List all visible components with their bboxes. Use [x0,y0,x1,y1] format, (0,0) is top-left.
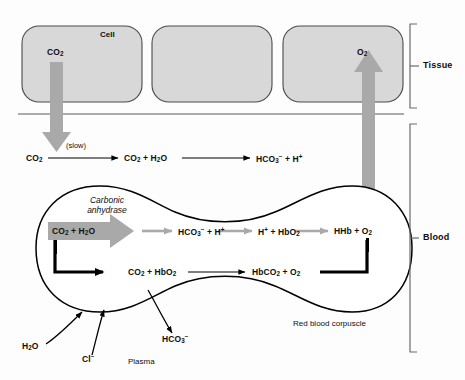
hco3-label: HCO3− [162,334,189,344]
rbc-lower-reactant: CO2 + HbO2 [128,268,176,277]
slow-rate-note: (slow) [66,142,86,150]
rbc-step-co2-h2o: CO2 + H2O [52,227,95,236]
rbc-step-h-hbo2: H+ + HbO2 [258,227,300,237]
hco3-arrow [148,290,172,333]
rbc-lower-product: HbCO2 + O2 [252,268,300,277]
rbc-step-hco3-h: HCO3− + H+ [178,227,225,237]
blood-bracket-label: Blood [423,233,450,242]
carbonic-anhydrase-label: Carbonicanhydrase [70,196,144,216]
cell-left [22,26,142,102]
cell-label: Cell [100,31,115,39]
o2-tissue-label: O2 [357,48,367,57]
plasma-step-hco3-h: HCO3− + H+ [256,154,303,164]
plasma-label: Plasma [128,358,155,366]
diagram-vector-layer [0,0,465,380]
plasma-step-co2-h2o: CO2 + H2O [124,154,167,163]
plasma-reactant-co2: CO2 [26,154,43,163]
h2o-label: H2O [22,342,39,351]
rbc-step-hhb-o2: HHb + O2 [334,227,372,236]
h2o-arrow [46,312,82,344]
tissue-cells-group [22,26,403,102]
co2-tissue-label: CO2 [47,48,64,57]
cl-label: Cl− [82,354,94,364]
red-blood-corpuscle-label: Red blood corpuscle [293,320,366,328]
cl-arrow [92,310,104,355]
tissue-bracket-label: Tissue [423,61,453,70]
diagram-canvas: Cell CO2 O2 CO2 (slow) CO2 + H2O HCO3− +… [0,0,465,380]
cell-right [283,26,403,102]
cell-middle [152,26,272,102]
